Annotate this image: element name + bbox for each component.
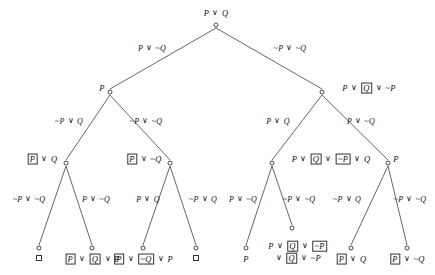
tree-edge-e-l-ll <box>66 95 110 160</box>
tree-edge-e-lr-3 <box>143 166 170 245</box>
tree-node-root[interactable] <box>214 23 219 28</box>
tree-node-n-l[interactable] <box>108 90 113 95</box>
empty-clause-icon-leaf1 <box>36 255 42 261</box>
tree-node-n-r[interactable] <box>320 90 325 95</box>
edge-label-e-rl-6: ~P ∨ ~Q <box>283 194 316 204</box>
edge-label-e-rr-7: ~P ∨ Q <box>333 194 361 204</box>
tree-node-n-rr[interactable] <box>386 161 391 166</box>
node-label-n-ll: P ∨ Q <box>27 154 58 165</box>
edge-label-e-lr-4: ~P ∨ Q <box>189 194 217 204</box>
node-label-n-lr: P ∨ ~Q <box>126 154 161 165</box>
node-label-leaf2: P ∨ Q ∨ P <box>65 254 120 265</box>
edge-label-e-rr-8: ~P ∨ ~Q <box>394 194 427 204</box>
node-label-leaf6: P ∨ Q ∨ ~P∨ Q ∨ ~P <box>268 240 328 265</box>
tree-node-leaf8[interactable] <box>405 246 410 251</box>
node-label-n-rr: P <box>393 154 398 165</box>
edge-label-e-l-ll: ~P ∨ Q <box>55 116 83 126</box>
node-label-leaf5: P <box>243 254 248 265</box>
edge-label-e-ll-2: P ∨ ~Q <box>82 194 110 204</box>
tree-edge-e-rr-8 <box>388 166 407 245</box>
tree-edge-e-root-r <box>216 28 322 89</box>
tree-node-n-rl[interactable] <box>270 161 275 166</box>
node-label-leaf8: P ∨ ~Q <box>389 254 424 265</box>
tree-edge-e-lr-4 <box>170 166 196 245</box>
tree-node-leaf5[interactable] <box>244 246 249 251</box>
tree-node-leaf7[interactable] <box>349 246 354 251</box>
edge-label-e-rl-5: P ∨ ~Q <box>229 194 257 204</box>
edge-label-e-lr-3: P ∨ Q <box>136 194 160 204</box>
edge-line-group <box>39 28 407 245</box>
tree-node-n-ll[interactable] <box>64 161 69 166</box>
tree-node-leaf2[interactable] <box>90 246 95 251</box>
node-label-n-r: P ∨ Q ∨ ~P <box>342 83 396 94</box>
tree-edge-e-r-rr <box>322 95 388 160</box>
tree-edge-e-l-lr <box>110 95 170 160</box>
edge-label-e-root-l: P ∨ ~Q <box>138 43 166 53</box>
empty-clause-icon-leaf4 <box>193 255 199 261</box>
edge-label-e-root-r: ~P ∨ ~Q <box>274 43 307 53</box>
node-label-n-rl: P ∨ Q ∨ ~P ∨ Q <box>292 154 371 165</box>
tree-edge-e-ll-1 <box>39 166 66 245</box>
tree-node-leaf1[interactable] <box>37 246 42 251</box>
edge-label-e-r-rr: P ∨ ~Q <box>347 116 375 126</box>
tree-edge-e-ll-2 <box>66 166 92 245</box>
node-label-leaf7: P ∨ Q <box>336 254 367 265</box>
tree-edge-e-r-rl <box>272 95 322 160</box>
node-label-leaf3: P ∨ ~Q ∨ P <box>113 254 173 265</box>
edge-label-e-l-lr: ~P ∨ ~Q <box>130 116 163 126</box>
tree-edge-e-root-l <box>110 28 216 89</box>
proof-tree-diagram: P ∨ QPP ∨ Q ∨ ~PP ∨ QP ∨ ~QP ∨ Q ∨ ~P ∨ … <box>0 0 435 275</box>
tree-node-leaf4[interactable] <box>194 246 199 251</box>
tree-edge-e-rr-7 <box>351 166 388 245</box>
tree-edge-e-rl-5 <box>246 166 272 245</box>
tree-edges-layer <box>0 0 435 275</box>
tree-node-leaf6[interactable] <box>290 226 295 231</box>
tree-node-leaf3[interactable] <box>141 246 146 251</box>
edge-label-e-r-rl: P ∨ Q <box>266 116 290 126</box>
node-label-n-l: P <box>99 83 104 94</box>
tree-node-n-lr[interactable] <box>168 161 173 166</box>
edge-label-e-ll-1: ~P ∨ ~Q <box>13 194 46 204</box>
node-label-root: P ∨ Q <box>204 8 228 19</box>
